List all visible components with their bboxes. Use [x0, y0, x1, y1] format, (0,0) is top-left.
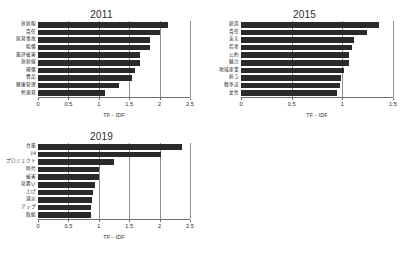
plot-area-2011: 放射能責任原発事故賠償風評被害放射線補償食品健康管理熱源発00.511.522.… [0, 21, 203, 123]
x-tick-label: 0 [239, 101, 242, 107]
bar [241, 83, 340, 88]
x-tick-label: 2.5 [186, 101, 194, 107]
category-label: 責任 [26, 30, 36, 35]
bars-container-2019 [38, 143, 190, 219]
category-label: 上げ [26, 190, 36, 195]
category-label: 女性 [229, 91, 239, 96]
bar [38, 144, 182, 149]
category-label: 戦争法 [224, 83, 239, 88]
x-axis-line [241, 97, 393, 98]
bar [241, 60, 349, 65]
bar [38, 22, 168, 27]
category-label: 熱源発 [21, 91, 36, 96]
category-label: アップ [21, 205, 36, 210]
panel-2011: 2011 放射能責任原発事故賠償風評被害放射線補償食品健康管理熱源発00.511… [0, 8, 203, 130]
gridline [393, 21, 394, 97]
bar [241, 52, 349, 57]
bars-container-2011 [38, 21, 190, 97]
category-label: 台風 [26, 144, 36, 149]
x-tick-label: 1.5 [125, 101, 133, 107]
x-tick-mark [38, 220, 39, 222]
x-tick-mark [342, 98, 343, 100]
figure-tfidf-bar-charts: 2011 放射能責任原発事故賠償風評被害放射線補償食品健康管理熱源発00.511… [0, 0, 406, 262]
category-label: 補償 [26, 68, 36, 73]
bar [38, 205, 91, 210]
x-tick-mark [99, 98, 100, 100]
plot-area-2015: 創造責任支え若者公約魅力地域産業担う戦争法女性00.511.5TF - IDF [203, 21, 406, 123]
bar [38, 167, 99, 172]
bar [38, 197, 92, 202]
bar [38, 83, 119, 88]
category-label: 放射線 [21, 60, 36, 65]
x-tick-label: 0.5 [65, 101, 73, 107]
category-label: 担う [229, 75, 239, 80]
x-axis-label: TF - IDF [306, 112, 328, 118]
bar [241, 22, 379, 27]
x-tick-mark [292, 98, 293, 100]
category-labels-2019: 台風19プロジェクト時代被害見舞い上げ減災アップ取組 [0, 143, 38, 245]
category-label: 原発事故 [16, 37, 36, 42]
category-label: 被害 [26, 175, 36, 180]
bar [241, 68, 344, 73]
x-tick-label: 2 [158, 101, 161, 107]
panel-title-2011: 2011 [0, 8, 203, 21]
category-label: 支え [229, 37, 239, 42]
x-tick-mark [160, 220, 161, 222]
x-tick-label: 1 [97, 101, 100, 107]
bar [38, 45, 150, 50]
bar [38, 75, 132, 80]
category-label: 若者 [229, 45, 239, 50]
x-tick-mark [129, 220, 130, 222]
bar [38, 174, 99, 179]
cropped-header-text [6, 0, 400, 3]
x-tick-mark [68, 98, 69, 100]
category-label: 風評被害 [16, 53, 36, 58]
bar [241, 75, 341, 80]
category-label: 地域産業 [219, 68, 239, 73]
bar [38, 90, 105, 95]
bar [38, 68, 135, 73]
bar [38, 37, 150, 42]
bar [38, 30, 160, 35]
category-label: 魅力 [229, 60, 239, 65]
gridline [160, 21, 161, 97]
x-tick-mark [190, 98, 191, 100]
bar [38, 52, 140, 57]
x-tick-label: 0.5 [65, 223, 73, 229]
category-label: 見舞い [21, 182, 36, 187]
category-label: 時代 [26, 167, 36, 172]
x-tick-label: 0 [36, 101, 39, 107]
category-label: 健康管理 [16, 83, 36, 88]
x-axis-label: TF - IDF [103, 112, 125, 118]
category-labels-2011: 放射能責任原発事故賠償風評被害放射線補償食品健康管理熱源発 [0, 21, 38, 123]
bar [38, 159, 114, 164]
gridline [190, 143, 191, 219]
category-labels-2015: 創造責任支え若者公約魅力地域産業担う戦争法女性 [203, 21, 241, 123]
x-tick-label: 0 [36, 223, 39, 229]
bar [38, 152, 161, 157]
x-tick-mark [99, 220, 100, 222]
category-label: 創造 [229, 22, 239, 27]
category-label: 減災 [26, 197, 36, 202]
x-tick-mark [190, 220, 191, 222]
x-tick-mark [129, 98, 130, 100]
panel-title-2015: 2015 [203, 8, 406, 21]
category-label: 食品 [26, 75, 36, 80]
category-label: 責任 [229, 30, 239, 35]
category-label: 公約 [229, 53, 239, 58]
x-tick-label: 1.5 [389, 101, 397, 107]
x-tick-label: 0.5 [288, 101, 296, 107]
x-axis-label: TF - IDF [103, 234, 125, 240]
plot-area-2019: 台風19プロジェクト時代被害見舞い上げ減災アップ取組00.511.522.5TF… [0, 143, 203, 245]
x-axis-line [38, 97, 190, 98]
panel-2015: 2015 創造責任支え若者公約魅力地域産業担う戦争法女性00.511.5TF -… [203, 8, 406, 130]
x-tick-mark [160, 98, 161, 100]
x-tick-mark [393, 98, 394, 100]
bar [38, 182, 95, 187]
category-label: 放射能 [21, 22, 36, 27]
bar [38, 212, 91, 217]
category-label: 賠償 [26, 45, 36, 50]
bar [241, 37, 354, 42]
x-axis-line [38, 219, 190, 220]
panel-title-2019: 2019 [0, 130, 203, 143]
